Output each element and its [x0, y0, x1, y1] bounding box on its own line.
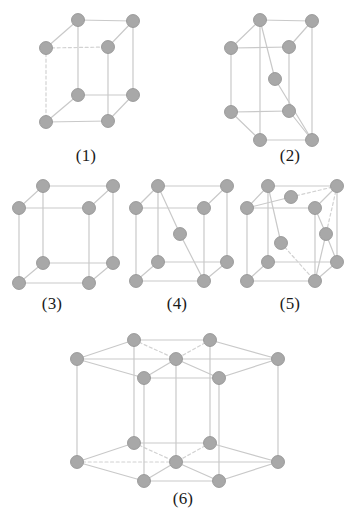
lattice-edge: [134, 340, 176, 359]
cell-5: [241, 180, 344, 288]
lattice-edge: [268, 186, 281, 243]
atom-corner-top-back-left: [40, 42, 53, 55]
atom-corner-bottom-back-left: [130, 275, 143, 288]
atom-bottom-hex-back-right: [204, 437, 217, 450]
atom-corner-top-back-left: [225, 42, 238, 55]
atom-face-centre-front: [275, 237, 288, 250]
atom-corner-bottom-front-right: [127, 89, 140, 102]
cell-1-edges: [46, 20, 133, 122]
cell-1: [40, 14, 140, 129]
cell-5-caption: (5): [270, 294, 310, 314]
atom-corner-bottom-back-right: [283, 105, 296, 118]
atom-corner-top-front-right: [127, 15, 140, 28]
atom-corner-top-front-right: [331, 180, 344, 193]
atom-body-centre: [269, 73, 282, 86]
lattice-edge: [219, 462, 278, 481]
cell-3-atoms: [13, 180, 120, 290]
atom-face-centre-right: [320, 228, 333, 241]
atom-corner-top-front-right: [107, 180, 120, 193]
atom-corner-bottom-back-left: [241, 275, 254, 288]
atom-bottom-hex-back-left: [128, 437, 141, 450]
atom-bottom-hex-front-right: [213, 475, 226, 488]
lattice-edge: [260, 20, 275, 79]
lattice-edge: [219, 359, 278, 378]
cell-2: [225, 14, 319, 147]
lattice-edge: [210, 443, 278, 462]
atom-top-hex-centre: [170, 353, 183, 366]
atom-corner-top-back-right: [102, 41, 115, 54]
atom-corner-bottom-front-right: [331, 256, 344, 269]
atom-corner-bottom-back-right: [309, 275, 322, 288]
atom-corner-top-front-left: [152, 180, 165, 193]
atom-corner-bottom-front-right: [306, 134, 319, 147]
atom-corner-bottom-back-left: [13, 277, 26, 290]
crystal-lattice-figure: (1)(2)(3)(4)(5)(6): [0, 0, 346, 517]
atom-top-hex-back-left: [128, 334, 141, 347]
atom-corner-top-back-right: [309, 202, 322, 215]
lattice-edge: [77, 462, 144, 481]
lattice-edge: [176, 462, 219, 481]
cell-6-caption: (6): [163, 489, 203, 509]
cell-3-edges: [19, 186, 113, 283]
atom-corner-top-front-left: [37, 180, 50, 193]
atom-corner-top-back-right: [283, 41, 296, 54]
cell-3: [13, 180, 120, 290]
atom-corner-bottom-back-left: [225, 106, 238, 119]
lattice-edge: [315, 234, 326, 281]
cell-4-atoms: [130, 180, 234, 288]
lattice-canvas: [0, 0, 346, 517]
atom-corner-bottom-front-left: [262, 256, 275, 269]
lattice-edge: [46, 121, 108, 122]
cell-6-atoms: [71, 334, 285, 488]
atom-body-centre: [174, 228, 187, 241]
atom-corner-top-front-right: [221, 180, 234, 193]
cell-2-caption: (2): [270, 146, 310, 166]
atom-bottom-hex-front-left: [138, 475, 151, 488]
cell-3-caption: (3): [32, 294, 72, 314]
atom-corner-top-back-right: [83, 202, 96, 215]
atom-corner-bottom-front-right: [221, 256, 234, 269]
atom-corner-top-back-left: [130, 202, 143, 215]
atom-bottom-hex-left: [71, 456, 84, 469]
cell-4-caption: (4): [157, 294, 197, 314]
cell-1-atoms: [40, 14, 140, 129]
atom-corner-bottom-back-right: [102, 115, 115, 128]
atom-corner-bottom-front-left: [152, 256, 165, 269]
atom-top-hex-right: [272, 353, 285, 366]
atom-top-hex-back-right: [204, 334, 217, 347]
atom-corner-top-front-left: [254, 14, 267, 27]
lattice-edge: [77, 443, 134, 462]
atom-corner-bottom-back-left: [40, 116, 53, 129]
cell-6: [71, 334, 285, 488]
atom-corner-top-back-left: [13, 202, 26, 215]
atom-bottom-hex-right: [272, 456, 285, 469]
lattice-edge: [210, 340, 278, 359]
atom-corner-bottom-front-left: [37, 257, 50, 270]
atom-corner-bottom-front-left: [254, 134, 267, 147]
atom-corner-top-back-right: [198, 202, 211, 215]
lattice-edge: [326, 186, 337, 234]
lattice-edge: [46, 47, 108, 48]
atom-top-hex-front-left: [138, 372, 151, 385]
lattice-edge: [158, 186, 180, 234]
atom-corner-bottom-front-right: [107, 257, 120, 270]
atom-corner-bottom-back-right: [198, 275, 211, 288]
atom-corner-bottom-front-left: [72, 89, 85, 102]
lattice-edge: [260, 20, 312, 21]
lattice-edge: [180, 234, 204, 281]
atom-corner-bottom-back-right: [83, 277, 96, 290]
cell-1-caption: (1): [66, 146, 106, 166]
atom-corner-top-back-left: [241, 202, 254, 215]
atom-bottom-hex-centre: [170, 456, 183, 469]
lattice-edge: [176, 359, 219, 378]
lattice-edge: [291, 186, 337, 197]
atom-corner-top-front-left: [262, 180, 275, 193]
atom-top-hex-left: [71, 353, 84, 366]
atom-face-centre-top: [285, 191, 298, 204]
cell-4: [130, 180, 234, 288]
lattice-edge: [78, 20, 133, 21]
lattice-edge: [134, 443, 176, 462]
atom-corner-top-front-left: [72, 14, 85, 27]
lattice-edge: [77, 340, 134, 359]
atom-top-hex-front-right: [213, 372, 226, 385]
